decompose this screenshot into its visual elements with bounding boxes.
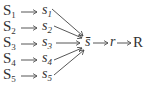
arrow-s4-sbar xyxy=(54,48,82,60)
signal-s3: s3 xyxy=(42,35,52,49)
result-R: R xyxy=(133,35,143,49)
signal-s5: s5 xyxy=(42,67,52,81)
source-S2: S2 xyxy=(3,19,16,33)
signal-s4: s4 xyxy=(42,51,52,65)
source-S3: S3 xyxy=(3,35,16,49)
aggregate-sbar: s̄ xyxy=(85,35,90,49)
signal-s1: s1 xyxy=(42,3,52,17)
source-S4: S4 xyxy=(3,51,16,65)
source-S1: S1 xyxy=(3,3,16,17)
arrows-layer xyxy=(0,0,147,90)
source-S5: S5 xyxy=(3,67,16,81)
signal-s2: s2 xyxy=(42,19,52,33)
intermediate-r: r xyxy=(110,35,115,49)
